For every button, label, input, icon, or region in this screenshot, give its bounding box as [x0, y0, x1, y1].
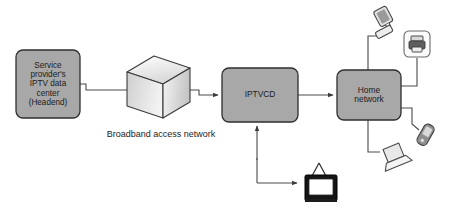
link-home-to-printer: [401, 58, 417, 86]
node-home-network[interactable]: [337, 70, 401, 120]
desktop-computer-icon[interactable]: [366, 6, 398, 39]
diagram-canvas: [0, 0, 449, 214]
node-iptvcd[interactable]: [222, 68, 298, 122]
link-home-to-phone: [401, 108, 419, 130]
node-headend[interactable]: [16, 50, 80, 118]
node-broadband-cube[interactable]: [127, 56, 190, 118]
television-icon[interactable]: [305, 163, 337, 202]
link-home-to-desktop: [368, 36, 377, 70]
network-diagram: Service provider's IPTV data center (Hea…: [0, 0, 449, 214]
link-home-to-laptop: [368, 120, 380, 152]
mobile-phone-icon[interactable]: [415, 122, 436, 147]
laptop-icon[interactable]: [377, 141, 412, 171]
printer-icon[interactable]: [404, 31, 430, 57]
